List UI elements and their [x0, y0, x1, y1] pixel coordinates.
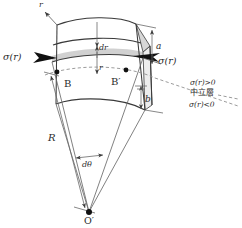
- curved-beam-diagram: [0, 0, 242, 228]
- dtheta-angle: [76, 155, 103, 158]
- label-dim-a: a: [156, 42, 161, 51]
- point-b-dot: [55, 70, 60, 75]
- label-dim-b: b: [145, 95, 151, 104]
- figure-canvas: r σ(r) σ(r) dr r a b B B′ R dθ O′ σ(r)>0…: [0, 0, 242, 228]
- label-dr: dr: [99, 44, 108, 52]
- label-tension-note: σ(r)>0: [190, 79, 216, 87]
- point-b-prime-dot: [124, 68, 129, 73]
- label-compression-note: σ(r)<0: [189, 101, 215, 109]
- label-point-b: B: [64, 79, 71, 89]
- label-point-b-prime: B′: [111, 77, 121, 87]
- label-sigma-left: σ(r): [3, 52, 21, 62]
- r-axis-arrow: [45, 12, 57, 25]
- label-neutral-layer-note: 中立層: [190, 89, 214, 97]
- label-radius-r: r: [99, 64, 103, 72]
- label-dtheta: dθ: [82, 161, 92, 169]
- label-r-axis: r: [39, 1, 43, 9]
- label-radius-R: R: [48, 133, 56, 143]
- label-o-prime: O′: [84, 216, 94, 226]
- label-sigma-right: σ(r): [158, 56, 176, 66]
